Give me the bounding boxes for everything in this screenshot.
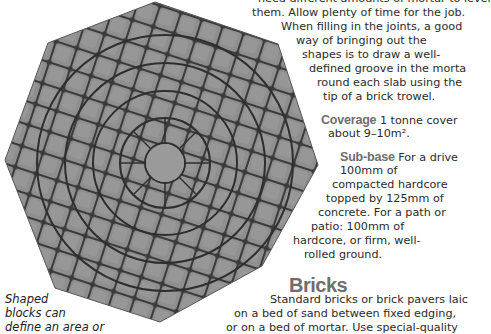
text-line: 1 tonne cover: [376, 114, 457, 127]
subbase-heading: Sub-base: [340, 150, 395, 164]
text-line: compacted hardcore: [332, 178, 448, 192]
text-line: defined groove in the morta: [309, 62, 466, 76]
text-line: For a drive: [395, 151, 458, 164]
text-line: about 9–10m².: [328, 127, 410, 141]
text-line: rolled ground.: [304, 248, 382, 262]
text-line: 100mm of: [340, 164, 398, 178]
caption-line: Shaped: [5, 292, 48, 306]
text-line: concrete. For a path or: [318, 206, 446, 220]
caption-line: blocks can: [5, 306, 66, 320]
text-line: them. Allow plenty of time for the job.: [252, 6, 465, 20]
text-line: round each slab using the: [317, 76, 462, 90]
text-line: hardcore, or firm, well-: [293, 234, 421, 248]
text-line: Standard bricks or brick pavers laic: [270, 293, 468, 307]
text-line: on a bed of sand between fixed edging,: [234, 307, 456, 321]
text-line: shapes is to draw a well-: [302, 48, 440, 62]
coverage-heading: Coverage: [321, 113, 376, 127]
text-line: patio: 100mm of: [311, 220, 404, 234]
text-line: topped by 125mm of: [326, 192, 444, 206]
text-line: When filling in the joints, a good: [281, 20, 462, 34]
text-line: way of bringing out the: [296, 34, 427, 48]
text-line: tip of a brick trowel.: [323, 90, 435, 104]
caption-line: define an area or: [5, 320, 104, 334]
paving-octagon-image: [0, 0, 330, 330]
text-line: or on a bed of mortar. Use special-quali…: [226, 321, 458, 334]
